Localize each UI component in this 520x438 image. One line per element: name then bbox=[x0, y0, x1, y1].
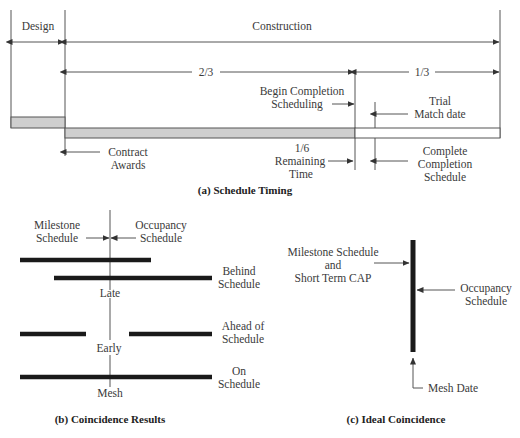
c-milestone-text-2: and bbox=[325, 259, 342, 271]
c-mesh-date-label: Mesh Date bbox=[428, 382, 478, 394]
caption-a: (a) Schedule Timing bbox=[198, 184, 293, 197]
b-milestone-text-1: Milestone bbox=[34, 219, 80, 231]
construction-remaining-bar bbox=[355, 128, 500, 138]
panel-b-coincidence-results: Milestone Schedule Occupancy Schedule La… bbox=[20, 210, 264, 426]
b-mesh-label: Mesh bbox=[97, 387, 123, 399]
b-ahead-text-1: Ahead of bbox=[222, 320, 265, 332]
panel-a-schedule-timing: Design Construction 2/3 1/3 Begin Comple… bbox=[11, 10, 500, 197]
trial-text-1: Trial bbox=[429, 95, 451, 107]
caption-b: (b) Coincidence Results bbox=[55, 413, 166, 426]
design-label: Design bbox=[22, 20, 55, 33]
c-occupancy-text-1: Occupancy bbox=[460, 282, 512, 295]
panel-c-ideal-coincidence: Milestone Schedule and Short Term CAP Oc… bbox=[287, 240, 512, 426]
contract-text-1: Contract bbox=[108, 146, 148, 158]
b-on-text-2: Schedule bbox=[218, 378, 260, 390]
b-milestone-text-2: Schedule bbox=[36, 232, 78, 244]
construction-label: Construction bbox=[252, 20, 312, 32]
c-occupancy-text-2: Schedule bbox=[465, 295, 507, 307]
begin-completion-text-1: Begin Completion bbox=[260, 85, 345, 98]
b-on-text-1: On bbox=[232, 365, 246, 377]
b-behind-text-1: Behind bbox=[222, 265, 255, 277]
b-occupancy-text-1: Occupancy bbox=[135, 219, 187, 232]
b-early-label: Early bbox=[97, 342, 122, 355]
two-thirds-label: 2/3 bbox=[199, 66, 214, 78]
remaining-text-1: 1/6 bbox=[295, 142, 310, 154]
begin-completion-text-2: Scheduling bbox=[271, 98, 323, 111]
caption-c: (c) Ideal Coincidence bbox=[347, 413, 446, 426]
contract-text-2: Awards bbox=[111, 159, 146, 171]
remaining-text-2: Remaining bbox=[275, 155, 326, 168]
c-milestone-text-1: Milestone Schedule bbox=[287, 246, 378, 258]
b-ahead-text-2: Schedule bbox=[222, 333, 264, 345]
b-behind-text-2: Schedule bbox=[218, 278, 260, 290]
one-third-label: 1/3 bbox=[415, 66, 430, 78]
remaining-text-3: Time bbox=[289, 168, 313, 180]
design-bar bbox=[11, 117, 65, 128]
complete-text-2: Completion bbox=[418, 158, 473, 171]
schedule-diagram: Design Construction 2/3 1/3 Begin Comple… bbox=[0, 0, 520, 438]
b-occupancy-text-2: Schedule bbox=[140, 232, 182, 244]
trial-text-2: Match date bbox=[414, 108, 465, 120]
b-late-label: Late bbox=[100, 287, 120, 299]
complete-text-3: Schedule bbox=[424, 171, 466, 183]
construction-elapsed-bar bbox=[65, 128, 355, 138]
complete-text-1: Complete bbox=[423, 145, 468, 158]
c-milestone-text-3: Short Term CAP bbox=[295, 272, 372, 284]
